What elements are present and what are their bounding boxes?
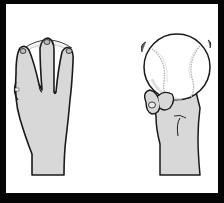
illustration-canvas	[6, 4, 218, 193]
panel-side-view	[112, 4, 218, 193]
watermark-strip	[6, 195, 218, 202]
hand-icon	[16, 38, 74, 175]
hand-front-grip-illustration	[6, 4, 112, 193]
hand-side-grip-illustration	[112, 4, 218, 193]
baseball-icon	[144, 34, 210, 100]
panel-front-view	[6, 4, 112, 193]
